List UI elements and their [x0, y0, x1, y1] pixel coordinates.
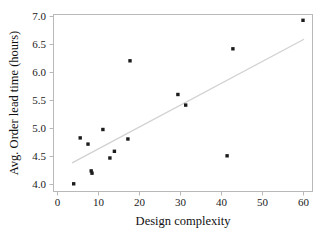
y-axis-tick-labels: 4.0 4.5 5.0 5.5 6.0 6.5 7.0	[32, 10, 46, 190]
x-tick-label-50: 50	[257, 196, 269, 208]
x-tick-label-40: 40	[216, 196, 228, 208]
data-point	[72, 182, 75, 185]
data-point	[301, 19, 304, 22]
data-point	[231, 47, 234, 50]
data-point	[184, 103, 187, 106]
data-point	[79, 136, 82, 139]
y-tick-label-6-0: 6.0	[32, 66, 46, 78]
x-tick-label-20: 20	[134, 196, 146, 208]
data-point-series	[72, 19, 305, 186]
y-tick-label-5-0: 5.0	[32, 122, 46, 134]
data-point	[225, 154, 228, 157]
x-axis-ticks	[58, 192, 304, 196]
y-axis-ticks	[50, 17, 54, 185]
data-point	[90, 172, 93, 175]
y-axis-title: Avg. Order lead time (hours)	[7, 31, 21, 176]
y-tick-label-6-5: 6.5	[32, 38, 46, 50]
x-axis-tick-labels: 0 10 20 30 40 50 60	[55, 196, 310, 208]
scatter-chart-figure: 4.0 4.5 5.0 5.5 6.0 6.5 7.0 0 10 20 30 4…	[0, 0, 325, 231]
chart-canvas: 4.0 4.5 5.0 5.5 6.0 6.5 7.0 0 10 20 30 4…	[0, 0, 325, 231]
data-point	[101, 128, 104, 131]
data-point	[128, 59, 131, 62]
data-point	[126, 137, 129, 140]
x-tick-label-60: 60	[298, 196, 310, 208]
y-tick-label-4-5: 4.5	[32, 150, 46, 162]
data-point	[86, 142, 89, 145]
plot-frame	[54, 15, 313, 192]
x-axis-title: Design complexity	[136, 214, 232, 228]
y-tick-label-5-5: 5.5	[32, 94, 46, 106]
y-tick-label-4-0: 4.0	[32, 178, 46, 190]
x-tick-label-0: 0	[55, 196, 61, 208]
data-point	[108, 156, 111, 159]
data-point	[113, 150, 116, 153]
data-point	[176, 93, 179, 96]
y-tick-label-7-0: 7.0	[32, 10, 46, 22]
x-tick-label-10: 10	[93, 196, 105, 208]
x-tick-label-30: 30	[175, 196, 187, 208]
trend-line	[73, 40, 304, 163]
